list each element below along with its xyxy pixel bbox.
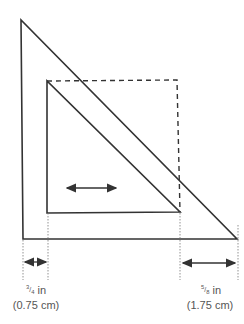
triangle-offset-diagram xyxy=(0,0,244,324)
outer-triangle xyxy=(21,20,237,239)
left-gap-metric: (0.75 cm) xyxy=(4,299,68,311)
left-gap-label: 3/4 in xyxy=(8,284,64,296)
right-gap-fraction: 5/8 xyxy=(201,286,209,293)
right-gap-label: 5/8 in xyxy=(186,284,236,296)
left-gap-unit: in xyxy=(37,284,46,296)
left-gap-fraction: 3/4 xyxy=(26,286,34,293)
right-gap-metric: (1.75 cm) xyxy=(178,299,242,311)
right-gap-unit: in xyxy=(212,284,221,296)
inner-triangle xyxy=(47,81,180,213)
